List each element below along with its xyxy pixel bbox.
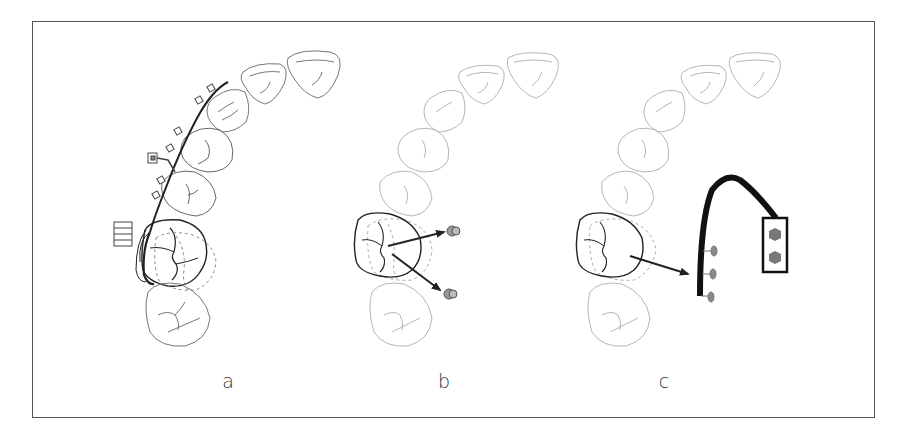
molar-movement-outline xyxy=(155,233,216,291)
panel-label-b: b xyxy=(438,370,450,392)
panel-a xyxy=(114,51,340,346)
molar-movement-outline xyxy=(590,219,656,280)
molar-tube xyxy=(114,222,132,246)
panel-b xyxy=(354,53,558,347)
first-molar xyxy=(576,213,643,277)
hook-attachment xyxy=(148,153,175,172)
miniscrew-icon xyxy=(444,226,460,299)
incisor-teeth xyxy=(207,51,340,132)
arch-teeth-faint xyxy=(588,53,781,347)
panel-label-c: c xyxy=(659,370,669,392)
panel-c xyxy=(576,53,787,347)
panel-label-a: a xyxy=(222,370,234,392)
arch-teeth-faint xyxy=(370,53,559,347)
second-molar xyxy=(146,283,210,346)
distalizer-appliance xyxy=(700,178,787,302)
force-arrows xyxy=(388,232,444,290)
molar-movement-outline xyxy=(368,219,432,280)
